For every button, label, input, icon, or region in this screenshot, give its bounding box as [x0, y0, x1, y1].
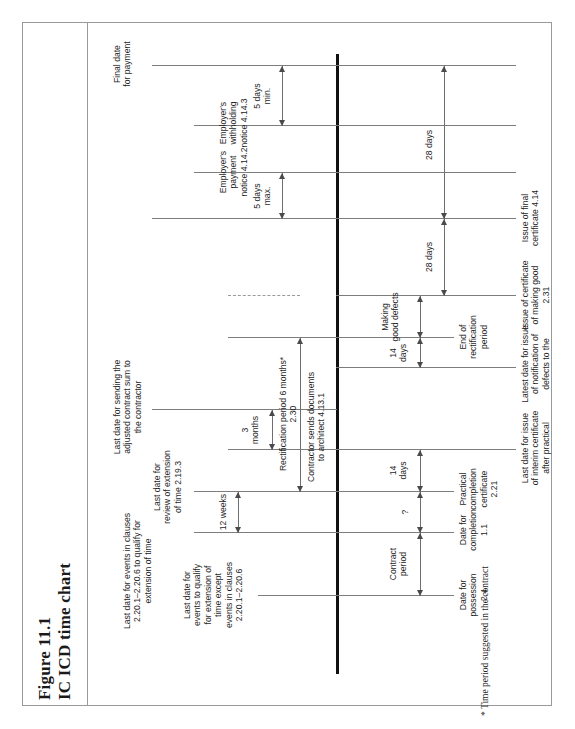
label-employers-withholding-notice: Employer's withholding notice 4.14.3: [218, 83, 249, 163]
dim-making-good-arrow-left: [417, 332, 423, 338]
dim-28days-final-line: [444, 219, 445, 296]
dim-14days-pc-arrow-right: [417, 450, 423, 456]
label-practical-completion: Practical completion certificate 2.21: [458, 454, 500, 524]
figure-title-block: Figure 11.1 IC ICD time chart: [22, 22, 87, 706]
label-events-clauses-qualify: Last date for events in clauses 2.20.1–2…: [122, 488, 153, 654]
page-canvas: Figure 11.1 IC ICD time chart: [0, 0, 575, 729]
dim-28days-payment-arrow-left: [441, 213, 447, 219]
tick-up-final-date: [152, 65, 337, 66]
dim-3months-arrow-left: [269, 444, 275, 450]
dim-3months-arrow-right: [269, 410, 275, 416]
dim-14days-pc-arrow-left: [417, 486, 423, 492]
tick-up-completion: [194, 532, 337, 533]
dim-contract-period-label: Contract period: [388, 533, 409, 595]
dim-12weeks-arrow-right: [235, 492, 241, 498]
tick-possession: [336, 595, 454, 596]
page-title: IC ICD time chart: [55, 22, 75, 700]
dim-28days-final-arrow-right: [441, 219, 447, 225]
label-adjusted-contract-sum: Last date for sending the adjusted contr…: [112, 337, 143, 477]
dim-making-good-label: Making good defects: [380, 289, 401, 345]
label-review-of-extension: Last date for review of extension of tim…: [152, 431, 183, 543]
tick-up-possession: [258, 595, 337, 596]
label-events-qualify-except: Last date for events to qualify for exte…: [182, 544, 245, 646]
label-date-for-possession: Date for possession 2.4: [458, 554, 489, 636]
dim-unknown-arrow-left: [417, 527, 423, 533]
dim-14days-def-arrow-left: [417, 362, 423, 368]
label-issue-final-certificate: Issue of final certificate 4.14: [520, 174, 541, 262]
time-chart: Contract period ? 14 days 14 days Making…: [88, 22, 552, 706]
dim-unknown-arrow-right: [417, 492, 423, 498]
tick-making-good-cert: [336, 295, 516, 296]
dim-contract-period-arrow-left: [417, 590, 423, 596]
dim-making-good-arrow-right: [417, 296, 423, 302]
dim-contract-period-line: [420, 533, 421, 596]
dim-contract-period-arrow-right: [417, 533, 423, 539]
dim-28days-final-label: 28 days: [424, 221, 434, 293]
tick-interim-cert: [336, 449, 516, 450]
dim-14days-def-arrow-right: [417, 338, 423, 344]
tick-up-making-good-dotted: [228, 295, 300, 296]
dim-5days-min-label: 5 days min.: [252, 68, 273, 124]
dim-5days-max-arrow-left: [279, 213, 285, 219]
tick-final-date-pay: [336, 65, 516, 66]
dim-12weeks-arrow-left: [235, 527, 241, 533]
label-contractor-sends-documents: Contractor sends documents to architect …: [306, 344, 327, 510]
tick-up-final-cert: [152, 218, 337, 219]
dim-5days-max-label: 5 days max.: [252, 173, 273, 219]
tick-final-cert: [336, 218, 516, 219]
tick-up-withholding: [194, 125, 337, 126]
dim-unknown-label: ?: [400, 492, 410, 532]
figure-number: Figure 11.1: [35, 22, 55, 700]
tick-practical-comp: [336, 491, 454, 492]
dim-28days-final-arrow-left: [441, 290, 447, 296]
dim-5days-min-arrow-right: [279, 66, 285, 72]
dim-28days-payment-label: 28 days: [424, 109, 434, 181]
label-rectification-period: Rectification period 6 months* 2.30: [278, 336, 299, 492]
dim-5days-min-line: [282, 66, 283, 126]
dim-28days-payment-line: [444, 66, 445, 219]
dim-5days-min-arrow-left: [279, 120, 285, 126]
dim-rect-period-line: [300, 338, 301, 492]
dim-12weeks-label: 12 weeks: [218, 480, 228, 544]
dim-3months-label: 3 months: [240, 410, 261, 450]
dim-14days-pc-label: 14 days: [388, 450, 409, 491]
label-end-of-rectification: End of rectification period: [458, 299, 489, 375]
label-final-date-for-payment: Final date for payment: [112, 28, 133, 100]
dim-28days-payment-arrow-right: [441, 66, 447, 72]
dim-5days-max-arrow-right: [279, 173, 285, 179]
timeline-axis: [336, 54, 339, 674]
